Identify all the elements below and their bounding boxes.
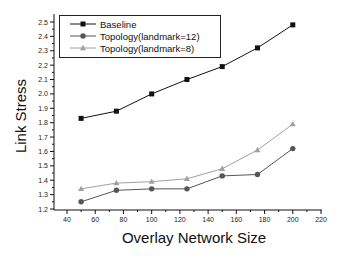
x-axis-title: Overlay Network Size [122, 229, 266, 246]
series-topology-landmark-12- [78, 146, 295, 205]
square-marker [220, 64, 225, 69]
square-marker [149, 91, 154, 96]
y-tick-label: 1.4 [38, 177, 48, 184]
legend-label: Baseline [100, 19, 136, 30]
line-chart: 1.21.31.41.51.61.71.81.92.02.12.22.32.42… [0, 0, 338, 259]
circle-marker [290, 146, 295, 151]
y-tick-label: 1.2 [38, 206, 48, 213]
y-tick-label: 1.8 [38, 119, 48, 126]
triangle-marker [255, 147, 261, 152]
triangle-marker [219, 166, 225, 171]
circle-marker [220, 173, 225, 178]
square-marker [81, 22, 86, 27]
x-tick-label: 200 [287, 216, 299, 223]
y-tick-label: 2.2 [38, 62, 48, 69]
y-tick-label: 2.3 [38, 47, 48, 54]
y-tick-label: 2.5 [38, 19, 48, 26]
circle-marker [255, 172, 260, 177]
square-marker [114, 109, 119, 114]
square-marker [255, 45, 260, 50]
y-tick-label: 1.5 [38, 162, 48, 169]
triangle-marker [290, 121, 296, 126]
y-tick-label: 1.6 [38, 148, 48, 155]
square-marker [290, 22, 295, 27]
x-tick-label: 100 [146, 216, 158, 223]
legend-label: Topology(landmark=12) [100, 31, 200, 42]
x-tick-label: 120 [174, 216, 186, 223]
x-tick-label: 140 [202, 216, 214, 223]
y-tick-label: 2.0 [38, 90, 48, 97]
x-tick-label: 160 [230, 216, 242, 223]
series-topology-landmark-8- [78, 121, 296, 191]
y-tick-label: 1.3 [38, 191, 48, 198]
circle-marker [78, 199, 83, 204]
square-marker [184, 77, 189, 82]
y-tick-label: 1.9 [38, 105, 48, 112]
circle-marker [149, 186, 154, 191]
y-axis-title: Link Stress [12, 79, 29, 153]
x-tick-label: 40 [63, 216, 71, 223]
circle-marker [184, 186, 189, 191]
y-tick-label: 1.7 [38, 134, 48, 141]
circle-marker [80, 33, 85, 38]
x-tick-label: 80 [120, 216, 128, 223]
legend: BaselineTopology(landmark=12)Topology(la… [60, 16, 221, 58]
x-tick-label: 180 [259, 216, 271, 223]
x-tick-label: 220 [315, 216, 327, 223]
y-tick-label: 2.4 [38, 33, 48, 40]
series-line [81, 149, 293, 202]
legend-label: Topology(landmark=8) [100, 43, 194, 54]
square-marker [79, 116, 84, 121]
y-tick-label: 2.1 [38, 76, 48, 83]
circle-marker [114, 188, 119, 193]
x-tick-label: 60 [91, 216, 99, 223]
